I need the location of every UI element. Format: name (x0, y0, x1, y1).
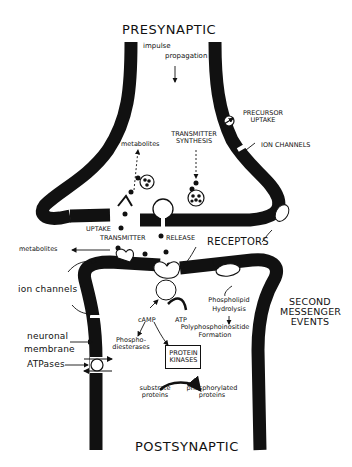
label-diesterases: diesterases (111, 344, 151, 351)
label-phospholipid: Phospholipid (203, 297, 255, 304)
uptake-carrier (118, 196, 132, 206)
label-receptors: RECEPTORS (207, 237, 269, 248)
label-protein-kinases: PROTEIN KINASES (165, 350, 202, 364)
presynaptic-membrane (42, 42, 279, 225)
label-neuronal-membrane: neuronal membrane (24, 332, 75, 355)
label-uptake: UPTAKE (86, 226, 111, 233)
label-precursor-uptake: PRECURSOR UPTAKE (239, 110, 287, 124)
label-substrate-proteins-2: proteins (135, 392, 175, 399)
label-kinases: KINASES (165, 357, 202, 364)
label-phospholipid-hydrolysis: Phospholipid Hydrolysis (203, 297, 255, 313)
label-release: RELEASE (166, 235, 195, 242)
label-formation: Formation (174, 332, 256, 339)
label-synthesis: SYNTHESIS (166, 138, 222, 145)
synaptic-vesicles (140, 175, 204, 206)
label-membrane: membrane (24, 345, 75, 354)
label-uptake-precursor: UPTAKE (239, 117, 287, 124)
postsynaptic-title: POSTSYNAPTIC (135, 440, 239, 454)
adenylate-cyclase (156, 280, 176, 300)
label-hydrolysis: Hydrolysis (203, 306, 255, 313)
label-phosphodiesterases: Phospho- diesterases (111, 337, 151, 351)
label-transmitter: TRANSMITTER (100, 235, 146, 242)
label-propagation: propagation (165, 53, 207, 60)
label-phosphorylated-proteins: phosphorylated proteins (183, 385, 241, 399)
label-second-messenger-events: SECOND MESSENGER EVENTS (280, 297, 340, 327)
label-metabolites-cleft: metabolites (19, 246, 58, 253)
presynaptic-title: PRESYNAPTIC (122, 23, 216, 37)
label-metabolites-pre: metabolites (121, 141, 160, 148)
label-neuronal: neuronal (24, 332, 75, 341)
label-impulse: impulse (143, 43, 171, 50)
label-camp: cAMP (138, 317, 156, 324)
postsynaptic-receptors (116, 249, 241, 300)
label-events: EVENTS (280, 317, 340, 327)
synapse-diagram: PRESYNAPTIC POSTSYNAPTIC impulse propaga… (0, 0, 352, 467)
label-polyphosphoinositide: Polyphosphoinositide (174, 324, 256, 331)
label-substrate-proteins: substrate proteins (135, 385, 175, 399)
label-polyphosphoinositide-formation: Polyphosphoinositide Formation (174, 324, 256, 339)
label-atpases: ATPases (27, 360, 65, 369)
label-ion-channels-post: ion channels (18, 285, 77, 294)
label-transmitter-synthesis: TRANSMITTER SYNTHESIS (166, 131, 222, 145)
label-ion-channels-pre: ION CHANNELS (261, 142, 310, 149)
atpase-pump (84, 357, 112, 373)
label-phosphorylated-proteins-2: proteins (183, 392, 241, 399)
